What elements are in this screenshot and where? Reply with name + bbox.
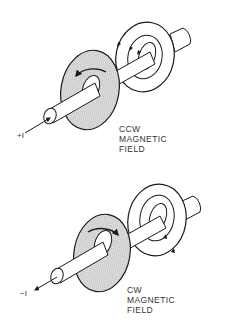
cw-diagram: −I CW MAGNETIC FIELD [20,180,201,315]
current-label: +I [17,131,24,140]
field-label-line2: MAGNETIC [119,134,167,144]
field-label-line2: MAGNETIC [127,295,175,305]
field-label-line1: CCW [119,124,141,134]
field-label-line3: FIELD [127,305,153,315]
current-label: −I [20,289,27,298]
field-label-line3: FIELD [119,144,145,154]
field-label-line1: CW [127,285,142,295]
ccw-diagram: +I CCW MAGNETIC FIELD [17,17,191,154]
magnetic-field-diagram: +I CCW MAGNETIC FIELD −I CW [0,0,226,329]
current-arrow-icon [25,118,50,133]
